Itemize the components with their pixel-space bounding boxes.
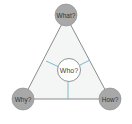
right-node: How? [99,88,121,110]
center-node: Who? [58,59,81,82]
who-what-why-how-diagram: Who? What? Why? How? [0,0,132,124]
top-node: What? [55,4,77,26]
left-node: Why? [12,88,34,110]
triangle [23,16,110,99]
right-node-label: How? [102,96,119,103]
top-node-label: What? [57,12,76,19]
left-node-label: Why? [15,96,32,104]
center-node-label: Who? [60,67,78,74]
